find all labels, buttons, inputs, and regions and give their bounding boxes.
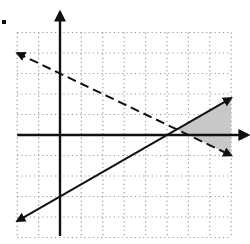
graph-canvas — [0, 0, 250, 244]
shaded-region — [177, 98, 231, 155]
coordinate-graph — [0, 0, 250, 244]
marker-dot — [2, 20, 6, 24]
dashed-line — [17, 53, 231, 156]
shaded-polygon — [177, 98, 231, 155]
